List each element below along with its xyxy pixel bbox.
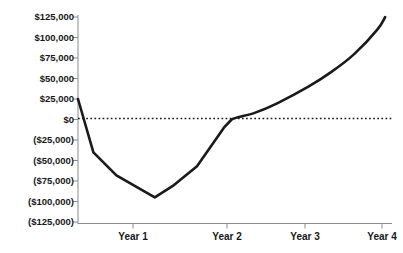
chart-container: $125,000 $100,000 $75,000 $50,000 $25,00… [0, 0, 403, 253]
x-axis-tick-labels: Year 1 Year 2 Year 3 Year 4 [0, 0, 403, 253]
x-tick-label-year-1: Year 1 [118, 231, 147, 242]
x-tick-label-year-2: Year 2 [212, 231, 241, 242]
x-tick-label-year-3: Year 3 [290, 231, 319, 242]
x-tick-label-year-4: Year 4 [367, 231, 396, 242]
